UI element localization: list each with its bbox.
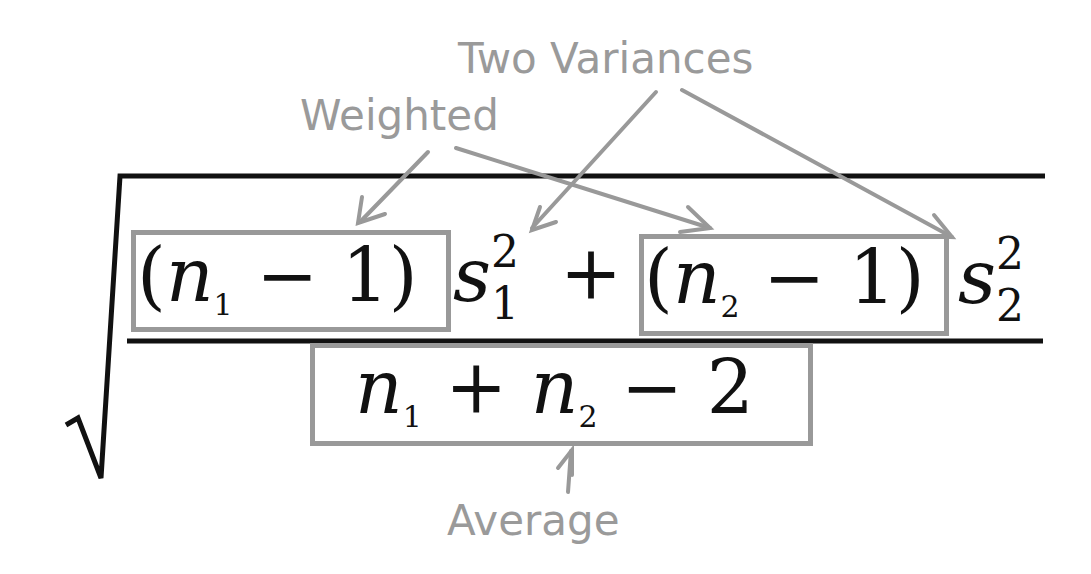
var-n2: n	[673, 234, 721, 320]
numerator-term2: (n2 − 1)	[644, 240, 925, 314]
arrow-variances-to-s1	[532, 92, 656, 228]
numerator-term1: (n1 − 1)	[137, 238, 418, 312]
label-average: Average	[447, 500, 619, 542]
plus-sign: +	[560, 236, 622, 310]
arrow-variances-to-s2	[682, 90, 952, 237]
variance-s1-squared: s 2 1	[453, 238, 491, 312]
arrow-weighted-to-term1	[360, 152, 428, 222]
var-n1: n	[166, 232, 214, 318]
arrow-weighted-to-term2	[456, 148, 710, 228]
variance-s2-squared: s 2 2	[958, 240, 996, 314]
label-weighted: Weighted	[300, 95, 499, 137]
denominator: n1 + n2 − 2	[355, 350, 754, 424]
label-two-variances: Two Variances	[458, 38, 753, 80]
